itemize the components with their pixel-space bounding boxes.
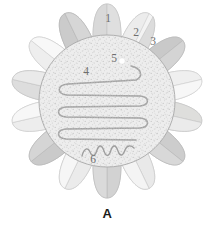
callout-label-1: 1 <box>105 12 111 24</box>
callout-label-3: 3 <box>150 35 156 47</box>
panel-caption: A <box>0 206 215 222</box>
figure-panel-a: 1 2 3 4 5 6 A <box>0 0 215 231</box>
figure-diagram: 1 2 3 4 5 6 <box>0 0 215 231</box>
central-stippled-disc <box>39 35 175 167</box>
callout-label-5: 5 <box>111 52 117 64</box>
callout-label-2: 2 <box>133 26 139 38</box>
callout-label-6: 6 <box>90 153 96 165</box>
callout-label-4: 4 <box>83 65 89 77</box>
white-dot-marker <box>119 58 125 64</box>
